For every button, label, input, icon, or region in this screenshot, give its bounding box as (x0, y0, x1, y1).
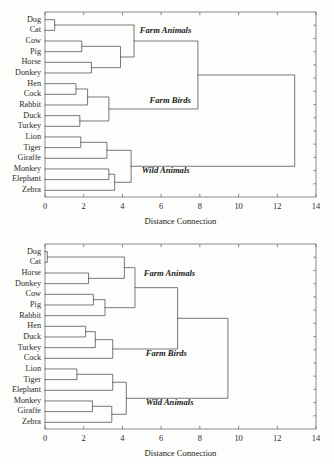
leaf-label: Hen (27, 321, 41, 330)
cluster-annotation: Wild Animals (142, 165, 190, 175)
leaf-label: Rabbit (19, 311, 42, 320)
leaf-label: Donkey (15, 68, 42, 77)
dendrogram-link (45, 273, 89, 284)
dendrogram-link (45, 41, 82, 52)
x-tick-label: 14 (312, 202, 321, 211)
cluster-annotation: Farm Animals (139, 25, 192, 35)
dendrogram-link (45, 169, 109, 180)
dendrogram-link (126, 318, 228, 398)
leaf-label: Duck (23, 111, 42, 120)
leaf-label: Zebra (22, 185, 41, 194)
dendrogram-link (45, 374, 113, 390)
dendrogram-link (113, 288, 178, 349)
x-tick-label: 4 (120, 434, 125, 443)
dendrogram-figure-top: 02468101214Distance ConnectionDogCatCowP… (0, 0, 334, 232)
dendrogram-link (45, 294, 93, 305)
dendrogram-link (45, 326, 86, 337)
leaf-label: Tiger (24, 143, 42, 152)
leaf-label: Hen (27, 79, 41, 88)
leaf-label: Pig (30, 47, 41, 56)
x-tick-label: 12 (273, 202, 281, 211)
cluster-annotation: Farm Birds (145, 348, 188, 358)
dendrogram-link (47, 257, 124, 278)
leaf-label: Cock (24, 353, 42, 362)
dendrogram-link (45, 401, 92, 412)
leaf-label: Lion (26, 132, 41, 141)
dendrogram-link (45, 116, 80, 127)
dendrogram-link (45, 89, 88, 105)
x-tick-label: 6 (159, 202, 163, 211)
dendrogram-link (45, 369, 77, 380)
leaf-label: Horse (21, 57, 41, 66)
leaf-label: Tiger (24, 375, 42, 384)
dendrogram-link (45, 142, 107, 158)
x-tick-label: 14 (312, 434, 321, 443)
figure-page: 02468101214Distance ConnectionDogCatCowP… (0, 0, 334, 464)
leaf-label: Cock (24, 89, 42, 98)
x-tick-label: 6 (159, 434, 163, 443)
leaf-label: Zebra (22, 417, 41, 426)
x-axis-title: Distance Connection (145, 448, 218, 458)
leaf-label: Monkey (14, 396, 42, 405)
dendrogram-link (82, 46, 121, 67)
dendrogram-link (80, 97, 109, 121)
dendrogram-link (131, 75, 295, 166)
dendrogram-link (45, 62, 91, 73)
leaf-label: Turkey (18, 121, 42, 130)
leaf-label: Elephant (12, 385, 42, 394)
x-tick-label: 10 (234, 434, 242, 443)
x-tick-label: 12 (273, 434, 281, 443)
leaf-label: Lion (26, 364, 41, 373)
dendrogram-link (105, 268, 135, 308)
dendrogram-figure-bottom: 02468101214Distance ConnectionDogCatHors… (0, 232, 334, 464)
x-tick-label: 4 (120, 202, 125, 211)
leaf-label: Monkey (14, 164, 42, 173)
leaf-label: Duck (23, 332, 42, 341)
dendrogram-link (45, 84, 76, 95)
leaf-label: Rabbit (19, 100, 42, 109)
leaf-label: Dog (27, 15, 41, 24)
leaf-label: Giraffe (18, 153, 42, 162)
leaf-label: Giraffe (18, 406, 42, 415)
leaf-label: Donkey (15, 279, 42, 288)
dendrogram-link (45, 20, 55, 31)
leaf-label: Turkey (18, 343, 42, 352)
dendrogram-link (45, 332, 95, 348)
dendrogram-link (45, 174, 115, 190)
dendrogram-svg-bottom: 02468101214Distance ConnectionDogCatHors… (0, 232, 334, 464)
x-axis-title: Distance Connection (145, 216, 218, 226)
leaf-label: Cat (30, 257, 42, 266)
dendrogram-link (45, 300, 105, 316)
dendrogram-link (45, 340, 113, 359)
x-tick-label: 8 (198, 202, 202, 211)
cluster-annotation: Wild Animals (146, 397, 194, 407)
leaf-label: Horse (21, 268, 41, 277)
cluster-annotation: Farm Birds (149, 95, 192, 105)
dendrogram-link (112, 382, 127, 414)
dendrogram-svg-top: 02468101214Distance ConnectionDogCatCowP… (0, 0, 334, 232)
leaf-label: Dog (27, 247, 41, 256)
leaf-label: Cat (30, 25, 42, 34)
dendrogram-link (107, 150, 131, 182)
x-tick-label: 0 (43, 434, 47, 443)
dendrogram-link (45, 406, 112, 422)
x-tick-label: 8 (198, 434, 202, 443)
x-tick-label: 0 (43, 202, 47, 211)
dendrogram-link (45, 137, 81, 148)
x-tick-label: 10 (234, 202, 242, 211)
leaf-label: Cow (26, 289, 42, 298)
leaf-label: Cow (26, 36, 42, 45)
cluster-annotation: Farm Animals (143, 268, 196, 278)
leaf-label: Elephant (12, 174, 42, 183)
x-tick-label: 2 (82, 434, 86, 443)
x-tick-label: 2 (82, 202, 86, 211)
leaf-label: Pig (30, 300, 41, 309)
